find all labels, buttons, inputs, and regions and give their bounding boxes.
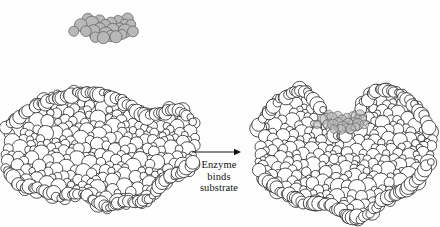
- enzyme-substrate-diagram: Enzyme binds substrate: [0, 0, 440, 227]
- enzyme-free-model: [0, 85, 200, 214]
- substrate-bound-model: [313, 110, 369, 135]
- reaction-label-line-1: Enzyme: [188, 159, 250, 171]
- substrate-unbound-model: [69, 13, 139, 44]
- enzyme-bound-model: [250, 81, 439, 226]
- right-arrow-icon: [192, 149, 241, 155]
- reaction-label-line-3: substrate: [188, 182, 250, 194]
- reaction-label-line-2: binds: [188, 171, 250, 183]
- reaction-label: Enzyme binds substrate: [188, 159, 250, 194]
